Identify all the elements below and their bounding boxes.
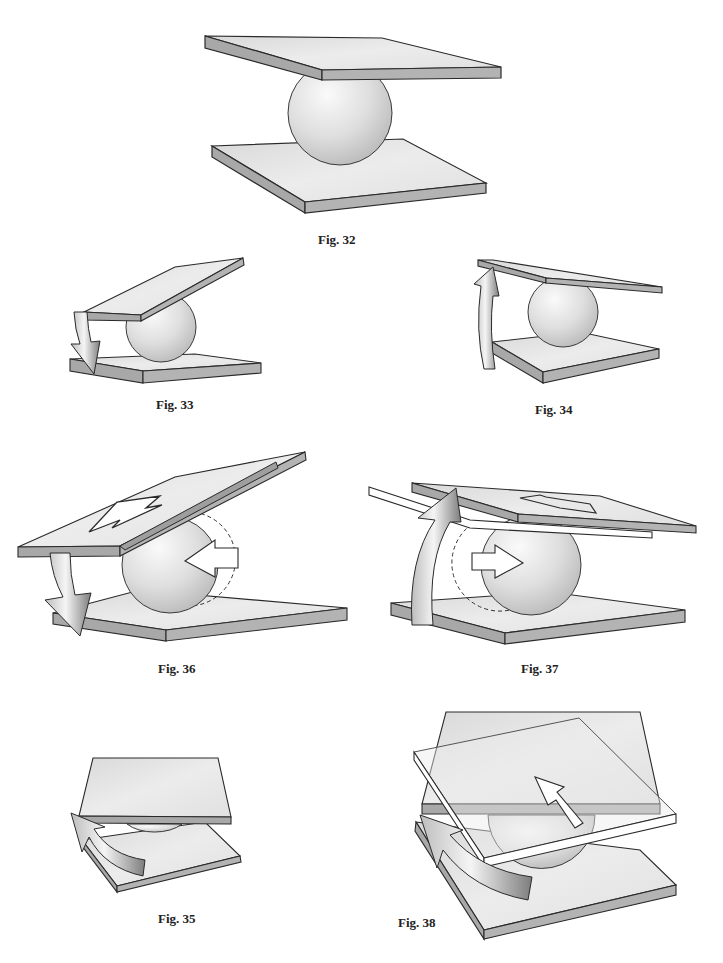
figure-caption: Fig. 36 [158, 661, 196, 677]
figure-caption: Fig. 37 [521, 661, 559, 677]
fig36-illustration [0, 440, 360, 680]
figure-caption: Fig. 33 [156, 397, 194, 413]
figure-35: Fig. 35 [0, 700, 360, 963]
figure-33: Fig. 33 [0, 250, 360, 430]
figure-32: Fig. 32 [0, 0, 723, 260]
figure-caption: Fig. 38 [398, 915, 436, 931]
figure-36: Fig. 36 [0, 440, 360, 680]
figure-caption: Fig. 32 [318, 232, 356, 248]
fig37-illustration [360, 440, 723, 680]
fig32-illustration [0, 0, 723, 260]
figure-caption: Fig. 35 [158, 911, 196, 927]
figure-38: Fig. 38 [360, 690, 723, 963]
figure-37: Fig. 37 [360, 440, 723, 680]
figure-34: Fig. 34 [360, 250, 723, 430]
top-plate [79, 758, 231, 824]
sphere [528, 277, 598, 347]
top-plate [205, 36, 501, 80]
figure-caption: Fig. 34 [535, 402, 573, 418]
